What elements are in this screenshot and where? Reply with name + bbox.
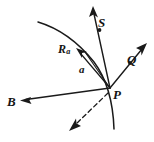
vector-b-line <box>26 88 110 100</box>
label-vector-ra: Ra <box>58 43 70 57</box>
vector-diagram-figure: S Q P B Ra a <box>0 0 154 142</box>
label-vector-ra-base: R <box>58 42 66 56</box>
label-vector-b: B <box>7 95 16 108</box>
label-vector-s: S <box>98 16 105 29</box>
vector-b-arrowhead-icon <box>20 97 32 104</box>
trajectory-arc-curve <box>38 22 114 129</box>
vector-s-arrowhead-icon <box>89 6 98 18</box>
dashed-vector-line <box>76 93 108 124</box>
label-angle-a: a <box>79 64 85 75</box>
vector-q-line <box>110 49 142 88</box>
label-vector-q: Q <box>127 53 136 66</box>
diagram-canvas <box>0 0 154 142</box>
label-vector-ra-subscript: a <box>66 47 70 56</box>
label-point-p: P <box>113 88 121 101</box>
